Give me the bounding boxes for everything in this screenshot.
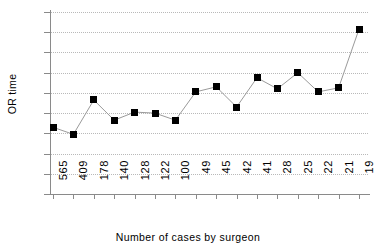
y-axis-tick	[44, 73, 50, 74]
x-axis-tick	[359, 194, 360, 199]
y-axis-tick	[44, 174, 50, 175]
y-axis-tick	[44, 52, 50, 53]
y-axis-line	[50, 10, 51, 195]
x-axis-tick	[114, 194, 115, 199]
x-axis-tick-label: 128	[140, 160, 151, 202]
x-axis-tick-label: 122	[160, 160, 171, 202]
x-axis-tick	[53, 194, 54, 199]
x-axis-tick-label: 28	[282, 160, 293, 202]
x-axis-tick	[298, 194, 299, 199]
gridline	[50, 32, 368, 33]
x-axis-tick-label: 409	[78, 160, 89, 202]
x-axis-tick	[237, 194, 238, 199]
gridline	[50, 12, 368, 13]
x-axis-tick	[94, 194, 95, 199]
gridline	[50, 154, 368, 155]
x-axis-tick	[216, 194, 217, 199]
x-axis-tick-label: 25	[303, 160, 314, 202]
x-axis-tick-label: 19	[364, 160, 375, 202]
x-axis-tick-label: 100	[180, 160, 191, 202]
x-axis-tick-label: 49	[201, 160, 212, 202]
y-axis-tick	[44, 93, 50, 94]
x-axis-tick-label: 21	[344, 160, 355, 202]
gridline	[50, 133, 368, 134]
x-axis-tick-label: 565	[58, 160, 69, 202]
y-axis-tick	[44, 32, 50, 33]
x-axis-title: Number of cases by surgeon	[0, 231, 376, 243]
x-axis-tick-label: 140	[119, 160, 130, 202]
gridline	[50, 93, 368, 94]
x-axis-tick	[257, 194, 258, 199]
gridline	[50, 52, 368, 53]
x-axis-tick	[277, 194, 278, 199]
y-axis-title: OR time	[6, 54, 18, 134]
x-axis-tick	[318, 194, 319, 199]
x-axis-tick	[73, 194, 74, 199]
x-axis-tick	[175, 194, 176, 199]
gridline	[50, 73, 368, 74]
gridline	[50, 113, 368, 114]
x-axis-tick-label: 45	[221, 160, 232, 202]
chart-container: OR time Number of cases by surgeon 18016…	[0, 0, 376, 248]
y-axis-tick	[44, 133, 50, 134]
x-axis-tick-label: 178	[99, 160, 110, 202]
x-axis-tick	[135, 194, 136, 199]
x-axis-tick	[339, 194, 340, 199]
x-axis-tick-label: 41	[262, 160, 273, 202]
x-axis-tick	[155, 194, 156, 199]
x-axis-tick-label: 22	[323, 160, 334, 202]
y-axis-tick	[44, 194, 50, 195]
x-axis-tick	[196, 194, 197, 199]
y-axis-tick	[44, 12, 50, 13]
x-axis-tick-label: 42	[242, 160, 253, 202]
y-axis-tick	[44, 113, 50, 114]
y-axis-tick	[44, 154, 50, 155]
